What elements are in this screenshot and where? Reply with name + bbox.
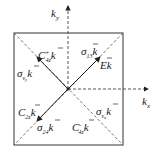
ky-label: ky — [51, 7, 60, 22]
label-c4z-plus: C+4zk — [38, 49, 57, 63]
arrow-upper-left — [37, 57, 68, 89]
label-sigma-vx: σvxk — [96, 105, 112, 120]
arrow-upper-right — [68, 57, 100, 89]
symmetry-diagram: ky kx C+4zk σ13k Ek σvyk C2zk σ24k C-4zk… — [0, 0, 158, 154]
arrow-lower-left — [37, 89, 68, 121]
kx-label: kx — [142, 95, 151, 110]
label-sigma-13: σ13k — [81, 45, 98, 59]
label-c4z-minus: C-4zk — [72, 121, 90, 135]
label-E: Ek — [99, 59, 113, 71]
label-sigma-vy: σvyk — [17, 67, 33, 82]
label-sigma-24: σ24k — [37, 121, 54, 135]
origin-point — [66, 87, 69, 90]
label-c2z: C2zk — [18, 106, 37, 120]
